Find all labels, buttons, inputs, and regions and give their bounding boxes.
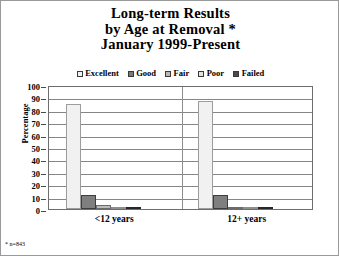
gridline (49, 186, 312, 187)
y-tick-label: 0 (36, 207, 40, 216)
x-tick-label-0: <12 years (95, 214, 134, 225)
y-tick-label: 50 (32, 145, 41, 154)
chart-legend: ExcellentGoodFairPoorFailed (1, 69, 339, 78)
category-separator (182, 87, 183, 209)
legend-item-poor: Poor (198, 69, 224, 78)
y-tick-label: 90 (32, 95, 41, 104)
y-tick-label: 60 (32, 132, 41, 141)
bar-good-1 (213, 195, 228, 209)
chart-title: Long-term Results by Age at Removal * Ja… (1, 6, 339, 53)
title-line-1: Long-term Results (1, 6, 339, 22)
y-tick-mark (41, 149, 46, 150)
legend-item-good: Good (128, 69, 156, 78)
y-tick-mark (41, 161, 46, 162)
legend-swatch-fair-icon (165, 71, 171, 77)
legend-label: Failed (242, 69, 265, 78)
y-tick-mark (41, 87, 46, 88)
gridline (49, 137, 312, 138)
gridline (49, 112, 312, 113)
legend-swatch-failed-icon (233, 71, 239, 77)
y-tick-mark (41, 99, 46, 100)
y-tick-mark (41, 211, 46, 212)
plot-area (48, 86, 313, 210)
legend-label: Good (136, 69, 156, 78)
legend-swatch-excellent-icon (77, 71, 83, 77)
y-tick-label: 20 (32, 182, 41, 191)
y-tick-label: 30 (32, 169, 41, 178)
bar-poor-1 (243, 207, 258, 209)
y-tick-label: 70 (32, 120, 41, 129)
legend-swatch-good-icon (128, 71, 134, 77)
bar-fair-0 (96, 205, 111, 209)
legend-item-excellent: Excellent (77, 69, 119, 78)
gridline (49, 124, 312, 125)
gridline (49, 99, 312, 100)
bar-fair-1 (228, 207, 243, 209)
y-tick-label: 10 (32, 194, 41, 203)
y-tick-mark (41, 174, 46, 175)
gridline (49, 161, 312, 162)
y-tick-mark (41, 186, 46, 187)
legend-item-failed: Failed (233, 69, 264, 78)
legend-label: Excellent (85, 69, 119, 78)
y-tick-mark (41, 199, 46, 200)
y-axis-title: Percentage (21, 89, 30, 159)
title-line-3: January 1999-Present (1, 37, 339, 53)
y-tick-mark (41, 112, 46, 113)
y-tick-label: 80 (32, 107, 41, 116)
y-tick-mark (41, 137, 46, 138)
chart-figure: Long-term Results by Age at Removal * Ja… (0, 0, 339, 256)
bar-excellent-1 (198, 101, 213, 209)
chart-footnote: * n=843 (5, 241, 25, 248)
bar-excellent-0 (66, 104, 81, 209)
legend-label: Fair (174, 69, 190, 78)
y-tick-label: 40 (32, 157, 41, 166)
plot-wrapper (48, 86, 313, 210)
x-axis: <12 years12+ years (48, 214, 313, 230)
y-tick-mark (41, 124, 46, 125)
legend-item-fair: Fair (165, 69, 189, 78)
bar-failed-1 (258, 207, 273, 209)
bar-failed-0 (126, 207, 141, 209)
title-line-2: by Age at Removal * (1, 22, 339, 38)
bar-poor-0 (111, 207, 126, 209)
legend-swatch-poor-icon (198, 71, 204, 77)
legend-label: Poor (207, 69, 224, 78)
gridline (49, 149, 312, 150)
gridline (49, 174, 312, 175)
x-tick-label-1: 12+ years (227, 214, 266, 225)
bar-good-0 (81, 195, 96, 209)
